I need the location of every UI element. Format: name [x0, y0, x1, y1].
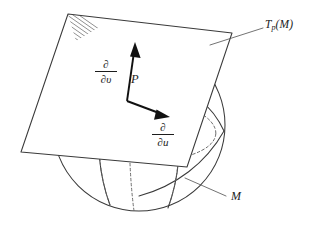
partial-u-fraction-bar: [152, 134, 174, 135]
label-tangent-plane: Tp(M): [265, 19, 293, 32]
partial-v-denominator: ∂υ: [95, 73, 117, 85]
partial-v-fraction-bar: [95, 71, 117, 72]
tangent-plane-face: [21, 14, 232, 167]
tangent-plane-diagram: [0, 0, 318, 225]
partial-v-numerator: ∂: [95, 59, 117, 71]
tangent-plane: [21, 14, 232, 167]
partial-u-numerator: ∂: [152, 122, 174, 134]
label-manifold: M: [231, 190, 241, 202]
label-partial-v: ∂ ∂υ: [95, 59, 117, 85]
partial-u-denominator: ∂u: [152, 136, 174, 148]
label-partial-u: ∂ ∂u: [152, 122, 174, 148]
label-point-p: P: [131, 73, 139, 86]
figure-root: Tp(M) M P ∂ ∂υ ∂ ∂u: [0, 0, 318, 225]
tangent-plane-argument: (M): [276, 18, 294, 30]
